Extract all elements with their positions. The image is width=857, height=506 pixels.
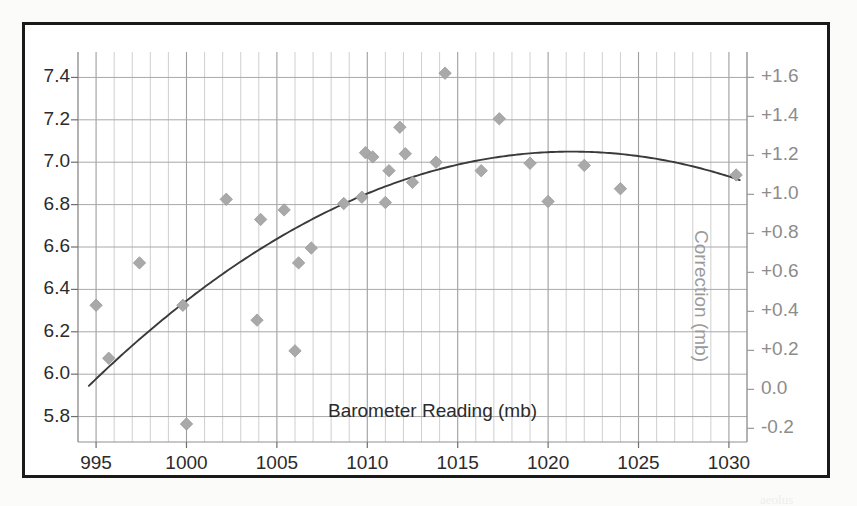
data-point-marker bbox=[305, 242, 317, 254]
y2tick-label-+1.2: +1.2 bbox=[761, 143, 821, 165]
data-point-marker bbox=[338, 197, 350, 209]
data-point-marker bbox=[220, 193, 232, 205]
xtick-label-1025: 1025 bbox=[617, 452, 659, 474]
gridlines-major bbox=[78, 52, 747, 442]
data-point-marker bbox=[289, 345, 301, 357]
xtick-label-1015: 1015 bbox=[437, 452, 479, 474]
data-point-marker bbox=[578, 159, 590, 171]
ytick-label-5.8: 5.8 bbox=[24, 405, 70, 427]
y2tick-label-+0.2: +0.2 bbox=[761, 338, 821, 360]
xtick-label-1005: 1005 bbox=[256, 452, 298, 474]
data-point-marker bbox=[133, 257, 145, 269]
x-axis-title: Barometer Reading (mb) bbox=[328, 400, 537, 422]
data-point-marker bbox=[254, 213, 266, 225]
xtick-label-995: 995 bbox=[80, 452, 112, 474]
y2tick-label-+0.4: +0.4 bbox=[761, 299, 821, 321]
data-point-marker bbox=[180, 418, 192, 430]
data-point-marker bbox=[542, 195, 554, 207]
ytick-label-6.0: 6.0 bbox=[24, 362, 70, 384]
figure-container: 5.86.06.26.46.66.87.07.27.4-0.20.0+0.2+0… bbox=[0, 0, 857, 506]
y2tick-label-+1.0: +1.0 bbox=[761, 182, 821, 204]
ytick-label-6.2: 6.2 bbox=[24, 320, 70, 342]
y2tick-label--0.2: -0.2 bbox=[761, 416, 821, 438]
y2tick-label-0.0: 0.0 bbox=[761, 377, 821, 399]
data-point-marker bbox=[475, 164, 487, 176]
data-point-marker bbox=[730, 169, 742, 181]
ytick-label-7.4: 7.4 bbox=[24, 65, 70, 87]
axis-ticks bbox=[71, 77, 754, 448]
y2tick-label-+0.6: +0.6 bbox=[761, 260, 821, 282]
y2tick-label-+0.8: +0.8 bbox=[761, 221, 821, 243]
data-point-marker bbox=[493, 113, 505, 125]
data-points-group bbox=[90, 67, 742, 430]
ytick-label-7.0: 7.0 bbox=[24, 150, 70, 172]
data-point-marker bbox=[379, 196, 391, 208]
y2tick-label-+1.4: +1.4 bbox=[761, 104, 821, 126]
data-point-marker bbox=[614, 183, 626, 195]
data-point-marker bbox=[90, 299, 102, 311]
y2tick-label-+1.6: +1.6 bbox=[761, 65, 821, 87]
data-point-marker bbox=[292, 257, 304, 269]
xtick-label-1020: 1020 bbox=[527, 452, 569, 474]
data-point-marker bbox=[430, 156, 442, 168]
ytick-label-7.2: 7.2 bbox=[24, 108, 70, 130]
data-point-marker bbox=[356, 191, 368, 203]
xtick-label-1010: 1010 bbox=[346, 452, 388, 474]
chart-frame: 5.86.06.26.46.66.87.07.27.4-0.20.0+0.2+0… bbox=[22, 22, 830, 478]
ytick-label-6.8: 6.8 bbox=[24, 193, 70, 215]
ytick-label-6.6: 6.6 bbox=[24, 235, 70, 257]
data-point-marker bbox=[524, 157, 536, 169]
xtick-label-1000: 1000 bbox=[165, 452, 207, 474]
data-point-marker bbox=[399, 148, 411, 160]
data-point-marker bbox=[394, 121, 406, 133]
y2-axis-title: Correction (mb) bbox=[690, 221, 712, 371]
data-point-marker bbox=[278, 204, 290, 216]
ytick-label-6.4: 6.4 bbox=[24, 277, 70, 299]
xtick-label-1030: 1030 bbox=[708, 452, 750, 474]
page-smudge: aeolus bbox=[760, 492, 793, 506]
data-point-marker bbox=[251, 314, 263, 326]
data-point-marker bbox=[383, 164, 395, 176]
